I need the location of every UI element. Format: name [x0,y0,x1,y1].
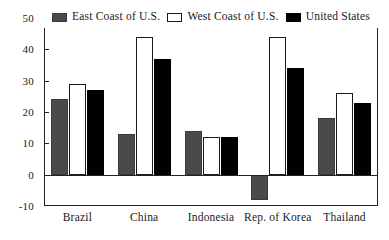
legend-label: East Coast of U.S. [72,11,160,23]
x-axis-labels: BrazilChinaIndonesiaRep. of KoreaThailan… [44,210,378,234]
bars-layer [44,18,378,206]
bar [287,68,304,175]
legend-item: United States [286,11,370,23]
y-axis-tick-mark [44,143,49,144]
x-axis-category-label: Indonesia [188,212,235,224]
bar [118,134,135,175]
legend-label: United States [306,11,370,23]
bar [185,131,202,175]
y-axis-tick-label: 20 [23,107,34,118]
x-axis-category-label: Rep. of Korea [244,212,311,224]
bar [221,137,238,175]
legend-swatch-icon [286,13,301,22]
bar-chart: -1001020304050 BrazilChinaIndonesiaRep. … [0,0,389,240]
bar [318,118,335,174]
legend-label: West Coast of U.S. [187,11,278,23]
y-axis-tick-label: -10 [19,201,34,212]
bar [269,37,286,175]
x-axis-category-label: China [130,212,158,224]
y-axis-tick-mark [44,112,49,113]
y-axis-tick-label: 40 [23,44,34,55]
y-axis-tick-label: 30 [23,75,34,86]
chart-legend: East Coast of U.S.West Coast of U.S.Unit… [44,6,378,28]
legend-swatch-icon [52,13,67,22]
legend-swatch-icon [167,13,182,22]
bar [69,84,86,175]
bar [251,175,268,200]
bar [51,99,68,174]
bar [203,137,220,175]
legend-item: West Coast of U.S. [167,11,278,23]
bar [154,59,171,175]
y-axis-tick-mark [44,81,49,82]
x-axis-category-label: Brazil [63,212,92,224]
legend-item: East Coast of U.S. [52,11,160,23]
bar [136,37,153,175]
x-axis-category-label: Thailand [323,212,365,224]
y-axis-labels: -1001020304050 [0,18,40,206]
bar [87,90,104,175]
bar [354,103,371,175]
y-axis-tick-label: 50 [23,13,34,24]
y-axis-tick-label: 10 [23,138,34,149]
y-axis-tick-label: 0 [28,169,34,180]
bar [336,93,353,174]
zero-baseline [44,175,378,176]
y-axis-tick-mark [44,49,49,50]
